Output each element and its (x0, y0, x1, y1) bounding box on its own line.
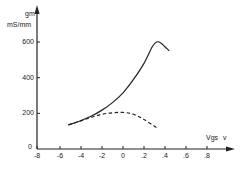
y-tick-label: 600 (4, 38, 34, 45)
x-tick-label: -6 (53, 152, 67, 159)
x-tick-label: -2 (95, 152, 109, 159)
dashed-curve (68, 112, 156, 127)
y-tick-label: 0 (2, 143, 32, 150)
x-tick-label: -8 (30, 152, 44, 159)
y-tick-label: 200 (4, 109, 34, 116)
x-tick-label: 0 (116, 152, 130, 159)
x-tick-label: .6 (179, 152, 193, 159)
x-axis-label: Vgs (206, 134, 218, 141)
y-tick-label: 400 (4, 74, 34, 81)
solid-curve (68, 42, 169, 125)
y-axis-label: gm (25, 10, 35, 17)
x-axis-arrow-icon (226, 147, 235, 152)
chart-plot (0, 0, 242, 169)
x-axis-unit: v (223, 134, 227, 141)
x-tick-label: .8 (200, 152, 214, 159)
x-tick-label: .4 (158, 152, 172, 159)
y-axis-unit: mS/mm (7, 21, 31, 28)
y-axis-arrow-icon (35, 5, 40, 14)
x-tick-label: -4 (74, 152, 88, 159)
x-tick-label: .2 (137, 152, 151, 159)
